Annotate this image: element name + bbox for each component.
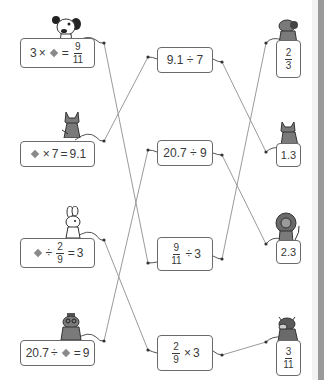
wire-left2-mid1 xyxy=(104,57,148,141)
equation-2-number: 7 xyxy=(52,147,59,161)
denominator: 9 xyxy=(57,254,63,265)
fraction: 2 9 xyxy=(56,242,64,265)
numerator: 2 xyxy=(56,242,64,254)
denominator: 3 xyxy=(286,60,292,71)
numerator: 9 xyxy=(74,42,82,54)
wire-left4-mid2 xyxy=(104,150,148,341)
wire-left3-mid4 xyxy=(104,240,148,350)
equals-sign: = xyxy=(61,147,68,161)
expression-3-number: 3 xyxy=(194,247,201,261)
fraction: 2 9 xyxy=(172,342,180,365)
cow-icon xyxy=(273,314,303,342)
cat-icon xyxy=(58,108,86,138)
denominator: 9 xyxy=(173,354,179,365)
numerator: 2 xyxy=(172,342,180,354)
equation-1-number: 3 xyxy=(30,46,37,60)
wire-mid4-right4 xyxy=(222,342,266,355)
equation-3-result: 3 xyxy=(77,246,84,260)
answer-box-2[interactable]: 1.3 xyxy=(276,143,301,167)
equation-4-number: 20.7 xyxy=(26,346,49,360)
expression-box-3[interactable]: 9 11 ÷ 3 xyxy=(157,237,213,271)
diamond-placeholder-icon xyxy=(33,249,41,257)
numerator: 3 xyxy=(285,347,293,359)
expression-box-2[interactable]: 20.7 ÷ 9 xyxy=(157,140,213,166)
denominator: 11 xyxy=(283,359,293,370)
expression-2-text: 20.7 ÷ 9 xyxy=(163,146,206,160)
multiply-sign: × xyxy=(184,346,191,360)
fraction: 9 11 xyxy=(171,243,181,266)
numerator: 9 xyxy=(173,243,181,255)
rabbit-icon xyxy=(58,206,86,238)
diamond-placeholder-icon xyxy=(31,150,39,158)
expression-1-text: 9.1 ÷ 7 xyxy=(167,53,204,67)
equals-sign: = xyxy=(62,46,69,60)
expression-box-1[interactable]: 9.1 ÷ 7 xyxy=(157,47,213,73)
equation-box-1[interactable]: 3 × = 9 11 xyxy=(20,38,95,68)
fraction: 9 11 xyxy=(73,42,83,65)
multiply-sign: × xyxy=(39,46,46,60)
answer-box-1[interactable]: 2 3 xyxy=(276,40,301,78)
expression-4-number: 3 xyxy=(193,346,200,360)
fraction: 2 3 xyxy=(285,48,293,71)
equation-box-2[interactable]: × 7 = 9.1 xyxy=(20,141,95,167)
equation-box-3[interactable]: ÷ 2 9 = 3 xyxy=(20,238,95,268)
denominator: 11 xyxy=(73,54,83,65)
answer-3-value: 2.3 xyxy=(281,246,296,258)
equation-4-result: 9 xyxy=(83,346,90,360)
fraction: 3 11 xyxy=(283,347,293,370)
divide-sign: ÷ xyxy=(51,346,58,360)
diamond-placeholder-icon xyxy=(61,349,69,357)
expression-box-4[interactable]: 2 9 × 3 xyxy=(157,335,213,371)
diamond-placeholder-icon xyxy=(49,49,57,57)
divide-sign: ÷ xyxy=(186,247,193,261)
numerator: 2 xyxy=(285,48,293,60)
denominator: 11 xyxy=(171,255,181,266)
answer-box-4[interactable]: 3 11 xyxy=(276,340,301,376)
answer-box-3[interactable]: 2.3 xyxy=(276,240,301,264)
wire-mid2-right3 xyxy=(222,155,266,244)
wire-left1-mid3 xyxy=(104,43,148,263)
mole-icon xyxy=(57,312,85,340)
equation-2-result: 9.1 xyxy=(70,147,87,161)
multiply-sign: × xyxy=(43,147,50,161)
answer-2-value: 1.3 xyxy=(281,149,296,161)
equals-sign: = xyxy=(74,346,81,360)
equation-box-4[interactable]: 20.7 ÷ = 9 xyxy=(20,340,95,366)
divide-sign: ÷ xyxy=(46,246,53,260)
lion-icon xyxy=(273,212,303,242)
equals-sign: = xyxy=(68,246,75,260)
